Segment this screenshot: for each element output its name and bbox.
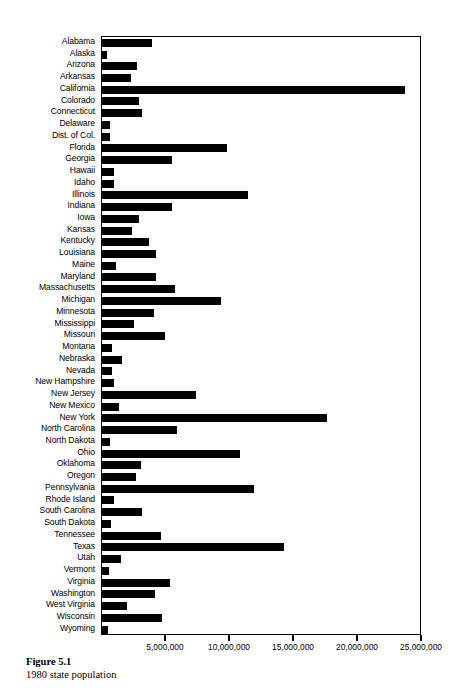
bar	[102, 367, 112, 375]
y-axis-tick-label: New Jersey	[0, 388, 98, 400]
bar-row	[102, 530, 420, 542]
bar-row	[102, 225, 420, 237]
bar	[102, 461, 141, 469]
y-axis-tick-label: New Hampshire	[0, 376, 98, 388]
bar	[102, 203, 172, 211]
bar	[102, 86, 405, 94]
y-axis-tick-label: Florida	[0, 142, 98, 154]
y-axis-tick-label: Maine	[0, 259, 98, 271]
bar-row	[102, 119, 420, 131]
bar	[102, 109, 142, 117]
y-axis-tick-label: California	[0, 83, 98, 95]
bar-row	[102, 143, 420, 155]
bar-row	[102, 342, 420, 354]
bar	[102, 250, 156, 258]
bar	[102, 215, 139, 223]
bar	[102, 168, 114, 176]
bar-row	[102, 260, 420, 272]
bar	[102, 391, 196, 399]
x-axis-tick	[228, 635, 229, 641]
y-axis-tick-label: Kansas	[0, 224, 98, 236]
bar	[102, 473, 136, 481]
bar-row	[102, 84, 420, 96]
y-axis-tick-label: Virginia	[0, 576, 98, 588]
y-axis-tick-label: Pennsylvania	[0, 482, 98, 494]
bar-row	[102, 354, 420, 366]
y-axis-tick-label: Michigan	[0, 294, 98, 306]
bar-row	[102, 166, 420, 178]
y-axis-tick-label: Texas	[0, 541, 98, 553]
bar-row	[102, 96, 420, 108]
bar-row	[102, 577, 420, 589]
y-axis-tick-label: Oklahoma	[0, 458, 98, 470]
bar-row	[102, 295, 420, 307]
bar	[102, 297, 221, 305]
x-axis-tick-label: 20,000,000	[336, 642, 378, 652]
bar	[102, 121, 110, 129]
y-axis-tick-label: Idaho	[0, 177, 98, 189]
bar	[102, 532, 161, 540]
bar-row	[102, 483, 420, 495]
bar	[102, 227, 132, 235]
bar	[102, 520, 111, 528]
bar-row	[102, 413, 420, 425]
bar-row	[102, 495, 420, 507]
bar-row	[102, 307, 420, 319]
y-axis-tick-label: West Virginia	[0, 599, 98, 611]
y-axis-tick-label: Mississippi	[0, 318, 98, 330]
x-axis-tick	[420, 635, 421, 641]
bar-row	[102, 542, 420, 554]
bar	[102, 344, 112, 352]
bar-row	[102, 424, 420, 436]
bar-row	[102, 401, 420, 413]
y-axis-tick-label: North Carolina	[0, 423, 98, 435]
y-axis-tick-label: Iowa	[0, 212, 98, 224]
bar	[102, 309, 154, 317]
bar-row	[102, 272, 420, 284]
bar-row	[102, 72, 420, 84]
bar	[102, 590, 155, 598]
bar	[102, 403, 119, 411]
bar-row	[102, 154, 420, 166]
bar	[102, 238, 149, 246]
bar-row	[102, 248, 420, 260]
bar-row	[102, 190, 420, 202]
bar	[102, 614, 162, 622]
bar-row	[102, 236, 420, 248]
bar-row	[102, 377, 420, 389]
y-axis-tick-label: Alabama	[0, 36, 98, 48]
bar	[102, 626, 108, 634]
y-axis-tick-label: Maryland	[0, 271, 98, 283]
bar	[102, 191, 248, 199]
caption-label: Figure 5.1	[26, 655, 256, 668]
bar	[102, 262, 116, 270]
bar-row	[102, 471, 420, 483]
y-axis-tick-label: New York	[0, 412, 98, 424]
bar	[102, 285, 175, 293]
bar	[102, 567, 109, 575]
bar	[102, 508, 142, 516]
x-axis-tick	[356, 635, 357, 641]
bar-row	[102, 37, 420, 49]
bar-row	[102, 60, 420, 72]
bar-row	[102, 448, 420, 460]
bar	[102, 97, 139, 105]
caption-text: 1980 state population	[26, 668, 256, 681]
bar-row	[102, 319, 420, 331]
bar-row	[102, 131, 420, 143]
bar-row	[102, 600, 420, 612]
y-axis-tick-label: Georgia	[0, 153, 98, 165]
y-axis-tick-label: Illinois	[0, 189, 98, 201]
y-axis-tick-label: Wisconsin	[0, 611, 98, 623]
bar	[102, 320, 134, 328]
y-axis-tick-label: Nevada	[0, 365, 98, 377]
bar	[102, 74, 131, 82]
bar	[102, 426, 177, 434]
y-axis-tick-label: Oregon	[0, 470, 98, 482]
bar-row	[102, 49, 420, 61]
y-axis-tick-label: Washington	[0, 588, 98, 600]
x-axis-tick	[164, 635, 165, 641]
figure-page: AlabamaAlaskaArizonaArkansasCaliforniaCo…	[0, 0, 468, 696]
y-axis-tick-label: Wyoming	[0, 623, 98, 635]
y-axis-tick-label: Hawaii	[0, 165, 98, 177]
